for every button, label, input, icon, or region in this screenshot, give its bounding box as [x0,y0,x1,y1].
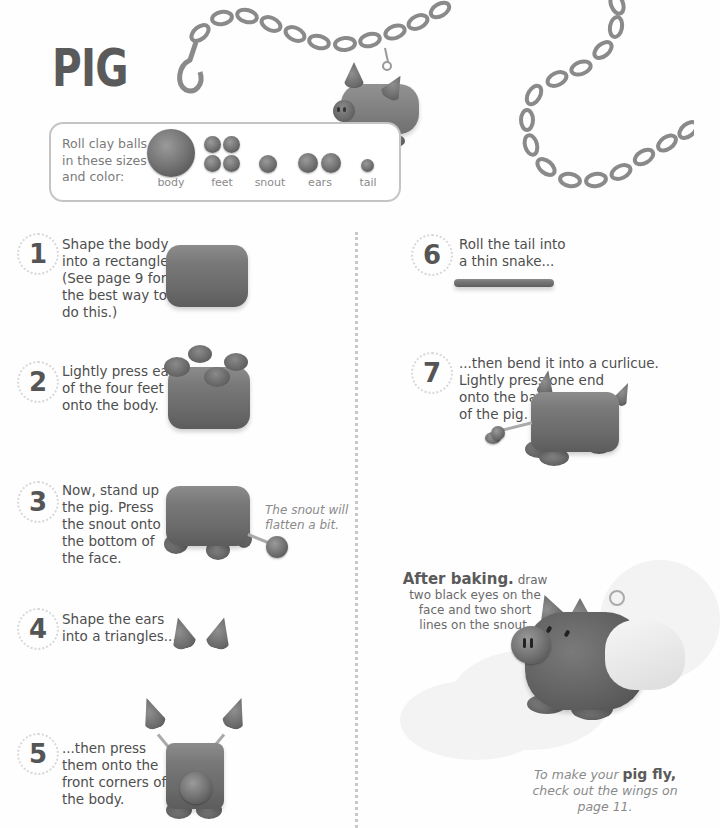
step-1-body-image [166,245,248,307]
step-3-text: Now, stand up the pig. Press the snout o… [62,482,161,567]
step-number-6: 6 [411,234,453,276]
body-ball [147,129,195,177]
step-5-front-pig-image [136,697,252,821]
step-6-text: Roll the tail into a thin snake... [459,236,566,270]
ball-label-snout: snout [245,176,295,189]
snout-ball [259,155,277,173]
step-7-pig-with-tail-image [485,370,635,470]
step-3-standing-pig-image [164,484,256,570]
step-number-1: 1 [17,233,59,275]
step-3-snout-ball [266,536,288,558]
page-title: PIG [52,42,128,94]
after-baking-heading: After baking. [403,570,514,588]
step-1-text: Shape the body into a rectangle. (See pa… [62,236,173,321]
column-divider [355,232,358,828]
ear-ball [321,153,341,173]
ball-label-tail: tail [343,176,393,189]
step-4-text: Shape the ears into a triangles... [62,611,177,645]
clay-balls-intro: Roll clay balls in these sizes and color… [62,136,147,186]
step-3-note: The snout will flatten a bit. [265,503,348,533]
step-2-body-with-feet-image [164,345,256,431]
step-number-3: 3 [17,481,59,523]
step-number-4: 4 [17,608,59,650]
ear-ball [298,153,318,173]
pig-fly-highlight: pig fly, [623,766,676,782]
wings-note: To make your pig fly, check out the wing… [520,766,690,815]
tail-ball [361,159,374,172]
ear-shape [203,614,236,652]
tail-snake-image [454,279,554,287]
ball-label-ears: ears [295,176,345,189]
feet-ball [204,155,221,172]
feet-ball [204,136,221,153]
ball-label-body: body [146,176,196,189]
step-number-5: 5 [17,733,59,775]
step-number-2: 2 [17,361,59,403]
feet-ball [223,136,240,153]
flying-pig-image [505,590,685,720]
step-number-7: 7 [411,352,453,394]
ball-label-feet: feet [197,176,247,189]
feet-ball [223,155,240,172]
